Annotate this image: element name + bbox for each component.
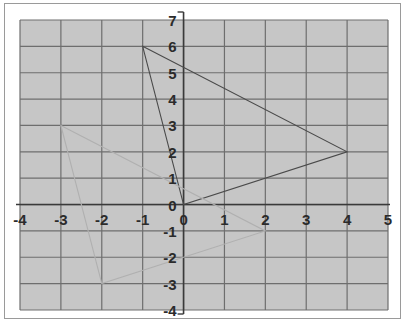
x-tick-label: 5	[384, 211, 392, 228]
y-tick-label: 7	[168, 12, 176, 29]
x-tick-label: -4	[13, 211, 27, 228]
y-tick-label: -2	[163, 249, 176, 266]
y-tick-label: -4	[163, 302, 177, 319]
x-tick-label: 0	[179, 211, 187, 228]
figure-canvas: -4-3-2-1012345 76543210-1-2-3-4	[0, 0, 407, 325]
coordinate-plane: -4-3-2-1012345 76543210-1-2-3-4	[0, 0, 407, 325]
y-tick-label: 1	[168, 170, 176, 187]
y-tick-label: 3	[168, 117, 176, 134]
x-tick-label: -3	[54, 211, 67, 228]
x-tick-label: -1	[136, 211, 149, 228]
y-tick-label: 0	[168, 197, 176, 214]
x-tick-label: 1	[220, 211, 228, 228]
x-tick-label: 4	[343, 211, 352, 228]
x-tick-label: -2	[95, 211, 108, 228]
y-tick-label: 5	[168, 65, 176, 82]
y-tick-label: 6	[168, 38, 176, 55]
x-tick-label: 3	[302, 211, 310, 228]
y-tick-label: -3	[163, 276, 176, 293]
grid-background	[20, 20, 388, 310]
y-tick-label: 2	[168, 144, 176, 161]
y-tick-label: -1	[163, 223, 176, 240]
y-tick-label: 4	[168, 91, 177, 108]
x-tick-label: 2	[261, 211, 269, 228]
